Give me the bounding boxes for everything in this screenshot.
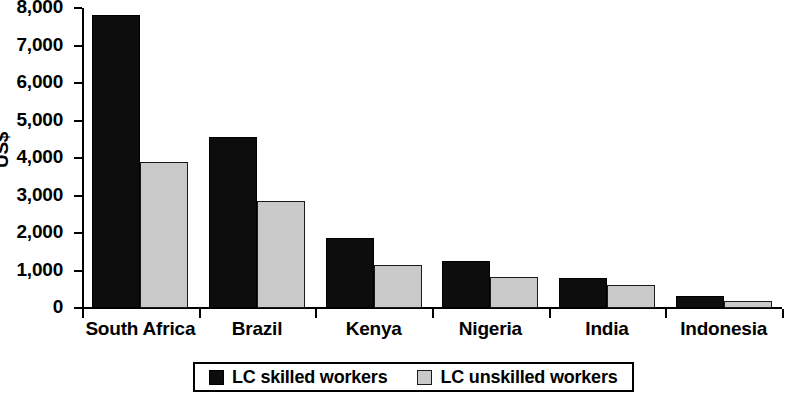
bar-skilled xyxy=(209,137,257,308)
bar-group xyxy=(209,8,305,308)
bar-skilled xyxy=(326,238,374,309)
bar-group xyxy=(92,8,188,308)
y-axis-tick: 7,000 xyxy=(74,45,82,47)
category-label: India xyxy=(585,318,628,340)
plot-area: 8,0007,0006,0005,0004,0003,0002,0001,000… xyxy=(82,8,782,308)
bar-group xyxy=(442,8,538,308)
gray-square-icon xyxy=(417,370,432,385)
y-axis-tick-label: 6,000 xyxy=(16,71,63,93)
y-axis-tick-label: 2,000 xyxy=(16,221,63,243)
y-axis-tick-label: 5,000 xyxy=(16,108,63,130)
category-tick xyxy=(549,309,551,318)
y-axis-tick: 2,000 xyxy=(74,232,82,234)
legend-entry-unskilled: LC unskilled workers xyxy=(417,367,617,388)
y-axis-tick: 3,000 xyxy=(74,195,82,197)
bar-unskilled xyxy=(490,277,538,308)
chart-legend: LC skilled workers LC unskilled workers xyxy=(193,362,634,392)
y-axis-tick-label: 8,000 xyxy=(16,0,63,18)
category-tick xyxy=(199,309,201,318)
bar-unskilled xyxy=(607,285,655,308)
bar-unskilled xyxy=(140,162,188,308)
bar-unskilled xyxy=(374,265,422,309)
y-axis-title: US$ xyxy=(0,132,13,168)
y-axis-tick-label: 0 xyxy=(53,296,63,318)
y-axis-tick: 4,000 xyxy=(74,157,82,159)
y-axis-tick-label: 4,000 xyxy=(16,146,63,168)
y-axis-tick: 5,000 xyxy=(74,120,82,122)
category-tick xyxy=(665,309,667,318)
legend-entry-skilled: LC skilled workers xyxy=(209,367,387,388)
black-square-icon xyxy=(209,370,224,385)
category-tick xyxy=(432,309,434,318)
category-label: Indonesia xyxy=(680,318,767,340)
bar-skilled xyxy=(559,278,607,308)
y-axis-tick: 0 xyxy=(74,307,82,309)
category-tick xyxy=(315,309,317,318)
bar-skilled xyxy=(676,296,724,308)
bar-group xyxy=(676,8,772,308)
category-tick xyxy=(782,309,784,318)
y-axis-tick-label: 1,000 xyxy=(16,258,63,280)
category-label: Brazil xyxy=(232,318,283,340)
y-axis-tick-label: 7,000 xyxy=(16,33,63,55)
bar-skilled xyxy=(92,15,140,308)
bar-chart: US$ 8,0007,0006,0005,0004,0003,0002,0001… xyxy=(0,0,789,397)
category-label: South Africa xyxy=(85,318,195,340)
category-tick xyxy=(82,309,84,318)
category-label: Nigeria xyxy=(459,318,522,340)
category-label: Kenya xyxy=(346,318,402,340)
bar-group xyxy=(559,8,655,308)
legend-label-skilled: LC skilled workers xyxy=(232,367,387,388)
bar-skilled xyxy=(442,261,490,308)
bar-unskilled xyxy=(257,201,305,308)
y-axis-tick: 8,000 xyxy=(74,7,82,9)
legend-label-unskilled: LC unskilled workers xyxy=(440,367,617,388)
y-axis-tick-label: 3,000 xyxy=(16,183,63,205)
y-axis-tick: 1,000 xyxy=(74,270,82,272)
y-axis-tick: 6,000 xyxy=(74,82,82,84)
bar-group xyxy=(326,8,422,308)
bar-unskilled xyxy=(724,301,772,309)
